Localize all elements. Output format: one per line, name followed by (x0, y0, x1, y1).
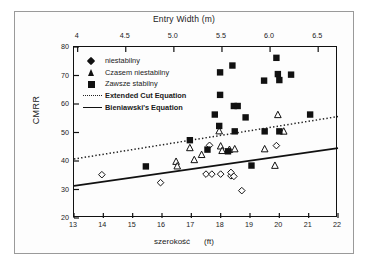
y-axis-title: CMRR (31, 70, 41, 150)
data-point-czasem-niestabilny (187, 144, 194, 150)
dotted-line-icon (83, 90, 105, 101)
data-point-zawsze-stabilny (212, 111, 218, 117)
legend-item: Bieniawski's Equation (83, 101, 208, 113)
data-point-niestabilny (99, 171, 106, 178)
data-point-zawsze-stabilny (261, 128, 267, 134)
filled-diamond-glyph (87, 56, 95, 64)
x-tick-label-top: 4.5 (120, 31, 130, 40)
x-tick-label-bottom: 19 (245, 220, 253, 229)
data-point-zawsze-stabilny (261, 77, 267, 83)
data-point-zawsze-stabilny (232, 128, 238, 134)
data-point-zawsze-stabilny (229, 62, 235, 68)
y-tick-label: 30 (51, 184, 69, 193)
data-point-zawsze-stabilny (307, 111, 313, 117)
data-point-niestabilny (209, 171, 216, 178)
legend-item: niestabilny (83, 55, 208, 67)
x-tick-label-top: 6.5 (312, 31, 322, 40)
data-point-zawsze-stabilny (234, 103, 240, 109)
figure-container: Entry Width (m) szerokość(ft) CMRR niest… (0, 0, 368, 270)
data-point-czasem-niestabilny (173, 158, 180, 164)
legend-item: Zawsze stabilny (83, 78, 208, 90)
x-tick-label-bottom: 21 (304, 220, 312, 229)
solid-line-glyph (83, 107, 102, 108)
data-point-zawsze-stabilny (248, 162, 254, 168)
data-point-czasem-niestabilny (272, 162, 279, 168)
x-tick-label-bottom: 18 (216, 220, 224, 229)
legend-item: Czasem niestabilny (83, 67, 208, 79)
y-tick-label: 80 (51, 42, 69, 51)
data-point-zawsze-stabilny (187, 137, 193, 143)
filled-diamond-icon (83, 55, 105, 66)
data-point-czasem-niestabilny (198, 151, 205, 157)
solid-line-icon (83, 102, 105, 113)
x-tick-label-bottom: 13 (69, 220, 77, 229)
x-tick-label-bottom: 17 (186, 220, 194, 229)
data-point-czasem-niestabilny (275, 111, 282, 117)
data-point-czasem-niestabilny (191, 156, 198, 162)
legend-item-label: Extended Cut Equation (105, 91, 186, 100)
x-tick-label-bottom: 22 (333, 220, 341, 229)
data-point-zawsze-stabilny (276, 77, 282, 83)
top-axis-title: Entry Width (m) (0, 14, 368, 24)
data-point-zawsze-stabilny (225, 148, 231, 154)
data-point-czasem-niestabilny (231, 145, 238, 151)
data-point-niestabilny (273, 142, 280, 149)
y-tick-label: 60 (51, 99, 69, 108)
y-tick-label: 20 (51, 213, 69, 222)
filled-triangle-glyph (88, 69, 94, 76)
x-tick-label-top: 5.5 (216, 31, 226, 40)
data-point-zawsze-stabilny (273, 55, 279, 61)
legend-item-label: Zawsze stabilny (105, 79, 158, 88)
data-point-zawsze-stabilny (217, 92, 223, 98)
filled-triangle-icon (83, 67, 105, 78)
data-point-zawsze-stabilny (217, 69, 223, 75)
data-point-zawsze-stabilny (242, 114, 248, 120)
trend-line-solid (74, 148, 338, 186)
x-tick-label-bottom: 20 (274, 220, 282, 229)
bottom-axis-unit: (ft) (204, 237, 214, 246)
data-point-niestabilny (157, 179, 164, 186)
data-point-zawsze-stabilny (216, 123, 222, 129)
legend-item-label: Czasem niestabilny (105, 68, 169, 77)
data-point-zawsze-stabilny (143, 163, 149, 169)
bottom-axis-title-text: szerokość (154, 237, 190, 246)
data-point-zawsze-stabilny (276, 128, 282, 134)
data-point-zawsze-stabilny (204, 146, 210, 152)
data-point-zawsze-stabilny (275, 71, 281, 77)
legend: niestabilnyCzasem niestabilnyZawsze stab… (83, 55, 208, 113)
y-tick-label: 50 (51, 127, 69, 136)
data-point-niestabilny (238, 187, 245, 194)
x-tick-label-top: 5.0 (168, 31, 178, 40)
legend-item: Extended Cut Equation (83, 90, 208, 102)
y-tick-label: 70 (51, 70, 69, 79)
data-point-zawsze-stabilny (288, 71, 294, 77)
x-tick-label-bottom: 14 (98, 220, 106, 229)
x-tick-label-bottom: 16 (157, 220, 165, 229)
data-point-czasem-niestabilny (261, 145, 268, 151)
legend-item-label: Bieniawski's Equation (105, 103, 183, 112)
filled-square-icon (83, 78, 105, 89)
x-tick-label-bottom: 15 (128, 220, 136, 229)
bottom-axis-title: szerokość(ft) (0, 237, 368, 246)
filled-square-glyph (88, 81, 95, 88)
x-tick-label-top: 4 (75, 31, 79, 40)
dotted-line-glyph (83, 95, 102, 96)
legend-item-label: niestabilny (105, 56, 140, 65)
y-tick-label: 40 (51, 156, 69, 165)
x-tick-label-top: 6.0 (264, 31, 274, 40)
data-point-niestabilny (217, 171, 224, 178)
